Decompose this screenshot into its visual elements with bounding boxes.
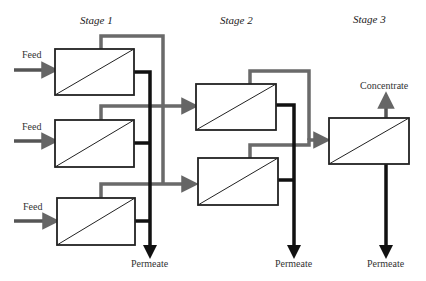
stage1-permeate-lines <box>134 72 150 252</box>
cascade-diagram <box>0 0 426 281</box>
module-s2-2 <box>198 158 278 205</box>
membrane-modules <box>55 49 409 245</box>
permeate-label-stage3: Permeate <box>367 258 404 269</box>
feed-label-2: Feed <box>22 121 41 132</box>
module-s1-2 <box>55 120 134 167</box>
stage-1-label: Stage 1 <box>80 14 113 26</box>
module-s1-1 <box>55 49 134 95</box>
concentrate-label: Concentrate <box>360 80 408 91</box>
feed-label-1: Feed <box>22 49 41 60</box>
permeate-label-stage1: Permeate <box>131 258 168 269</box>
module-s1-3 <box>57 198 135 245</box>
permeate-label-stage2: Permeate <box>275 258 312 269</box>
feed-label-3: Feed <box>23 201 42 212</box>
stage-2-label: Stage 2 <box>220 14 253 26</box>
stage-3-label: Stage 3 <box>353 13 386 25</box>
feed-arrows <box>14 70 51 221</box>
module-s3-1 <box>329 118 409 164</box>
module-s2-1 <box>196 84 276 130</box>
